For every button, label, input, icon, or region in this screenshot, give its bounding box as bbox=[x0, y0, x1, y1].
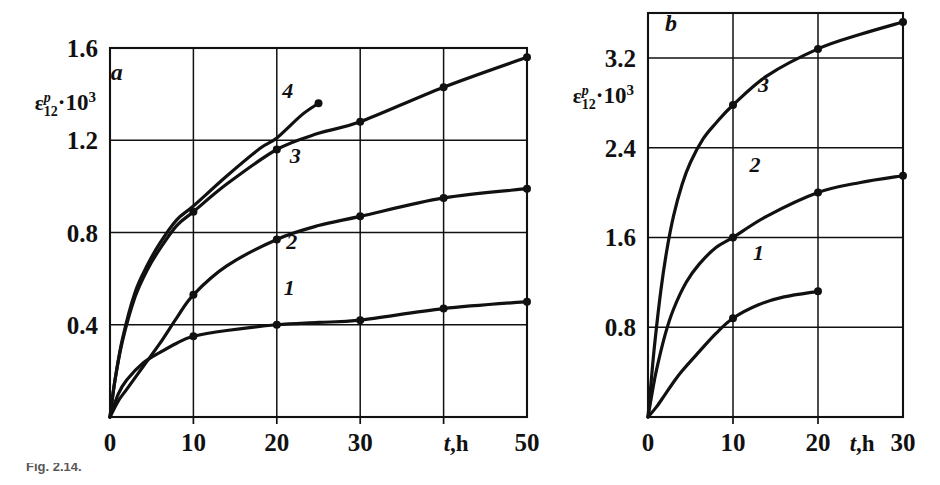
data-point-marker bbox=[273, 145, 281, 153]
data-point-marker bbox=[356, 212, 364, 220]
x-axis-tick-label: 20 bbox=[264, 429, 289, 456]
data-point-marker bbox=[729, 101, 737, 109]
figure-caption-strip: Fig. 2.14. bbox=[0, 463, 940, 485]
data-point-marker bbox=[356, 118, 364, 126]
curve-number-label: 2 bbox=[285, 229, 297, 254]
y-axis-tick-label: 3.2 bbox=[605, 45, 636, 72]
curve-number-label: 4 bbox=[281, 78, 293, 103]
curve-number-label: 3 bbox=[757, 72, 769, 97]
creep-curves-figure: 0102030500.40.81.21.6εp12·103t,ha1234 01… bbox=[0, 0, 940, 485]
x-axis-tick-label: 0 bbox=[642, 429, 655, 456]
curve-number-label: 1 bbox=[753, 240, 764, 265]
y-axis-tick-label: 0.8 bbox=[67, 220, 98, 247]
y-axis-tick-label: 1.6 bbox=[67, 35, 98, 62]
svg-text:εp12·103: εp12·103 bbox=[573, 82, 634, 112]
curve-number-label: 1 bbox=[284, 275, 295, 300]
x-axis-tick-label: 0 bbox=[104, 429, 117, 456]
data-point-marker bbox=[315, 99, 323, 107]
figure-background bbox=[0, 0, 940, 485]
data-point-marker bbox=[189, 332, 197, 340]
data-point-marker bbox=[189, 291, 197, 299]
x-axis-tick-label: 10 bbox=[721, 429, 746, 456]
data-point-marker bbox=[814, 45, 822, 53]
x-axis-tick-label: 30 bbox=[348, 429, 373, 456]
y-axis-tick-label: 0.8 bbox=[605, 314, 636, 341]
data-point-marker bbox=[273, 321, 281, 329]
data-point-marker bbox=[440, 194, 448, 202]
figure-root: 0102030500.40.81.21.6εp12·103t,ha1234 01… bbox=[0, 0, 940, 485]
data-point-marker bbox=[356, 316, 364, 324]
data-point-marker bbox=[523, 53, 531, 61]
data-point-marker bbox=[523, 298, 531, 306]
data-point-marker bbox=[899, 18, 907, 26]
data-point-marker bbox=[814, 189, 822, 197]
data-point-marker bbox=[273, 235, 281, 243]
panel-label: a bbox=[111, 59, 123, 85]
x-axis-tick-label: 20 bbox=[806, 429, 831, 456]
data-point-marker bbox=[899, 172, 907, 180]
data-point-marker bbox=[814, 287, 822, 295]
svg-text:εp12·103: εp12·103 bbox=[35, 89, 96, 119]
figure-caption: Fig. 2.14. bbox=[26, 463, 82, 474]
curve-number-label: 2 bbox=[749, 152, 761, 177]
data-point-marker bbox=[729, 233, 737, 241]
y-axis-tick-label: 2.4 bbox=[605, 135, 637, 162]
panel-label: b bbox=[665, 10, 677, 36]
x-axis-title: t,h bbox=[444, 431, 469, 456]
x-axis-tick-label: 10 bbox=[181, 429, 206, 456]
data-point-marker bbox=[523, 185, 531, 193]
y-axis-tick-label: 1.2 bbox=[67, 127, 98, 154]
y-axis-tick-label: 0.4 bbox=[67, 312, 99, 339]
y-axis-title: εp12·103 bbox=[35, 89, 96, 119]
data-point-marker bbox=[440, 305, 448, 313]
data-point-marker bbox=[729, 314, 737, 322]
x-axis-tick-label: 50 bbox=[515, 429, 540, 456]
x-axis-title: t,h bbox=[850, 431, 875, 456]
curve-number-label: 3 bbox=[289, 143, 301, 168]
x-axis-tick-label: 30 bbox=[891, 429, 916, 456]
data-point-marker bbox=[440, 83, 448, 91]
y-axis-tick-label: 1.6 bbox=[605, 224, 636, 251]
y-axis-title: εp12·103 bbox=[573, 82, 634, 112]
